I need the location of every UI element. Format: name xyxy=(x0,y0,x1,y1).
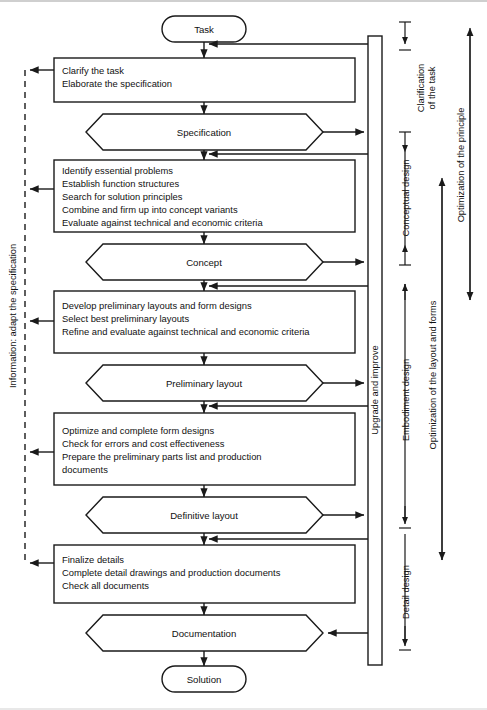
process-embodiment2-line-2: Prepare the preliminary parts list and p… xyxy=(62,451,262,462)
phase-label-embodiment-design: Embodiment design xyxy=(401,359,411,441)
process-embodiment2-line-0: Optimize and complete form designs xyxy=(62,425,214,436)
result-concept-label: Concept xyxy=(186,257,222,268)
process-detail-line-1: Complete detail drawings and production … xyxy=(62,567,281,578)
phase-label-clarification-line-1: of the task xyxy=(427,66,437,109)
process-embodiment1-line-2: Refine and evaluate against technical an… xyxy=(62,326,310,337)
process-conceptual-line-0: Identify essential problems xyxy=(62,165,173,176)
process-embodiment2-line-3: documents xyxy=(62,464,108,475)
phase-label-clarification-line-0: Clarification xyxy=(416,64,426,113)
result-definitive-layout-label: Definitive layout xyxy=(170,510,238,521)
process-detail-line-0: Finalize details xyxy=(62,554,124,565)
result-preliminary-layout-label: Preliminary layout xyxy=(166,378,243,389)
process-conceptual-line-2: Search for solution principles xyxy=(62,191,183,202)
result-documentation-label: Documentation xyxy=(172,628,237,639)
information-adapt-specification-label: Information: adapt the specification xyxy=(8,244,18,388)
end-node-solution-label: Solution xyxy=(187,674,222,685)
process-embodiment2-line-1: Check for errors and cost effectiveness xyxy=(62,438,225,449)
start-node-task-label: Task xyxy=(194,24,214,35)
optimization-layout-label: Optimization of the layout and forms xyxy=(428,300,438,449)
phase-label-conceptual-design: Conceptual design xyxy=(401,159,411,236)
process-detail-line-2: Check all documents xyxy=(62,580,149,591)
process-conceptual-line-3: Combine and firm up into concept variant… xyxy=(62,204,238,215)
design-process-diagram: Information: adapt the specification Tas… xyxy=(0,0,487,710)
upgrade-and-improve-label: Upgrade and improve xyxy=(370,345,380,434)
process-conceptual-line-1: Establish function structures xyxy=(62,178,180,189)
phase-label-detail-design: Detail design xyxy=(401,565,411,619)
result-specification-label: Specification xyxy=(177,127,231,138)
process-clarify-line-0: Clarify the task xyxy=(62,65,124,76)
process-embodiment1-line-0: Develop preliminary layouts and form des… xyxy=(62,300,252,311)
optimization-principle-label: Optimization of the principle xyxy=(456,108,466,223)
process-clarify-line-1: Elaborate the specification xyxy=(62,78,172,89)
process-conceptual-line-4: Evaluate against technical and economic … xyxy=(62,217,263,228)
process-embodiment1-line-1: Select best preliminary layouts xyxy=(62,313,189,324)
flowchart-canvas: Information: adapt the specification Tas… xyxy=(0,0,487,710)
